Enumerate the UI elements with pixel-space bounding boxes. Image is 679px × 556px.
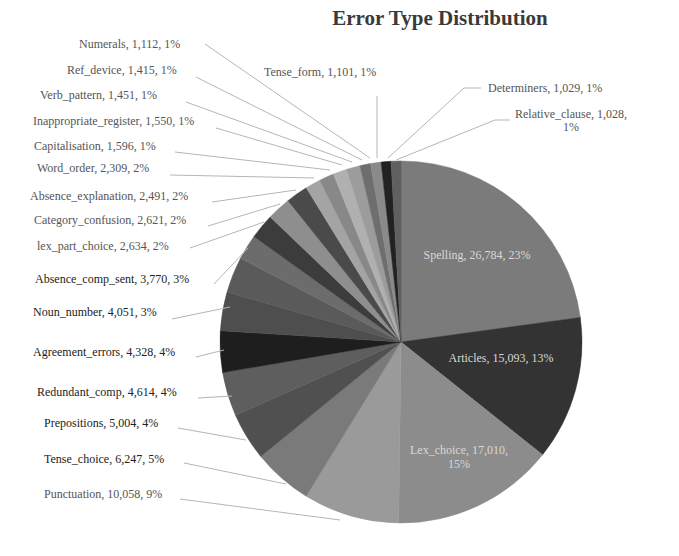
label-tense-choice: Tense_choice, 6,247, 5%	[44, 453, 164, 466]
leader-line-verb-pattern	[186, 102, 352, 162]
label-tense-form: Tense_form, 1,101, 1%	[264, 66, 376, 79]
label-inappropriate-register: Inappropriate_register, 1,550, 1%	[33, 115, 194, 128]
label-absence-comp-sent: Absence_comp_sent, 3,770, 3%	[35, 273, 189, 286]
label-prepositions: Prepositions, 5,004, 4%	[44, 417, 158, 430]
label-punctuation: Punctuation, 10,058, 9%	[44, 488, 162, 501]
leader-line-punctuation	[180, 499, 340, 520]
label-numerals: Numerals, 1,112, 1%	[79, 38, 180, 51]
label-capitalisation: Capitalisation, 1,596, 1%	[34, 140, 156, 153]
label-absence-explanation: Absence_explanation, 2,491, 2%	[30, 190, 188, 203]
label-lex-choice: Lex_choice, 17,010, 15%	[394, 443, 524, 471]
leader-line-word-order	[170, 175, 314, 178]
leader-line-agreement-errors	[196, 350, 224, 357]
leader-line-prepositions	[178, 428, 246, 440]
leader-line-ref-device	[196, 77, 362, 160]
label-lex-choice-line2: 15%	[394, 457, 524, 471]
label-relative-clause: Relative_clause, 1,028, 1%	[515, 108, 627, 134]
label-word-order: Word_order, 2,309, 2%	[37, 162, 149, 175]
label-ref-device: Ref_device, 1,415, 1%	[67, 64, 177, 77]
label-lex-part-choice: lex_part_choice, 2,634, 2%	[37, 240, 169, 253]
label-articles: Articles, 15,093, 13%	[436, 351, 566, 365]
label-lex-choice-line1: Lex_choice, 17,010,	[394, 443, 524, 457]
leader-line-numerals	[205, 44, 370, 158]
leader-line-noun-number	[172, 307, 230, 319]
label-noun-number: Noun_number, 4,051, 3%	[33, 306, 157, 319]
label-verb-pattern: Verb_pattern, 1,451, 1%	[40, 89, 157, 102]
label-relative-clause-line2: 1%	[515, 121, 627, 134]
label-spelling: Spelling, 26,784, 23%	[412, 248, 542, 262]
leader-line-absence-explanation	[212, 190, 296, 202]
leader-line-determiners	[388, 88, 481, 158]
leader-line-relative-clause	[396, 120, 510, 160]
leader-line-redundant-comp	[198, 396, 232, 398]
label-agreement-errors: Agreement_errors, 4,328, 4%	[33, 346, 175, 359]
label-redundant-comp: Redundant_comp, 4,614, 4%	[37, 386, 177, 399]
label-category-confusion: Category_confusion, 2,621, 2%	[34, 214, 186, 227]
label-determiners: Determiners, 1,029, 1%	[488, 82, 602, 95]
